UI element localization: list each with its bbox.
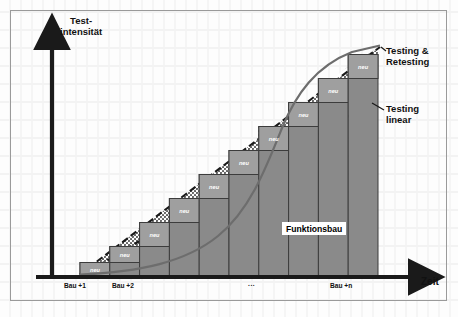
annotation-testing-linear-line2: linear [386, 115, 419, 126]
bar-cap-label-4: neu [179, 208, 189, 214]
bar-cap-label-1: neu [90, 267, 100, 273]
bar-cap-label-8: neu [299, 112, 309, 118]
figure-page: Test- intensität Zeit Testing & Retestin… [0, 0, 458, 317]
x-tick-label-bau-2: Bau +2 [112, 282, 134, 289]
y-axis-label-line2: intensität [60, 27, 102, 38]
x-axis-label: Zeit [421, 276, 439, 287]
bar-cap-label-3: neu [150, 232, 160, 238]
bar-cap-label-7: neu [269, 136, 279, 142]
bar-cap-label-6: neu [239, 160, 249, 166]
annotation-testing-linear: Testing linear [386, 104, 419, 125]
bar-body-10 [348, 55, 378, 278]
x-tick-label-bau-n: Bau +n [330, 282, 352, 289]
bar-cap-label-9: neu [328, 88, 338, 94]
bar-cap-label-5: neu [209, 184, 219, 190]
bar-cap-label-2: neu [120, 252, 130, 258]
annotation-testing-retesting-line2: Retesting [386, 57, 429, 68]
bar-body-8 [289, 103, 319, 278]
x-tick-label-bau-1: Bau +1 [64, 282, 86, 289]
bar-cap-label-10: neu [358, 64, 368, 70]
funktionsbau-label: Funktionsbau [282, 222, 346, 235]
y-axis-label: Test- intensität [60, 16, 102, 37]
x-tick-label-ellipsis: ... [248, 280, 255, 287]
bar-body-9 [318, 79, 348, 278]
annotation-testing-retesting: Testing & Retesting [386, 46, 429, 67]
